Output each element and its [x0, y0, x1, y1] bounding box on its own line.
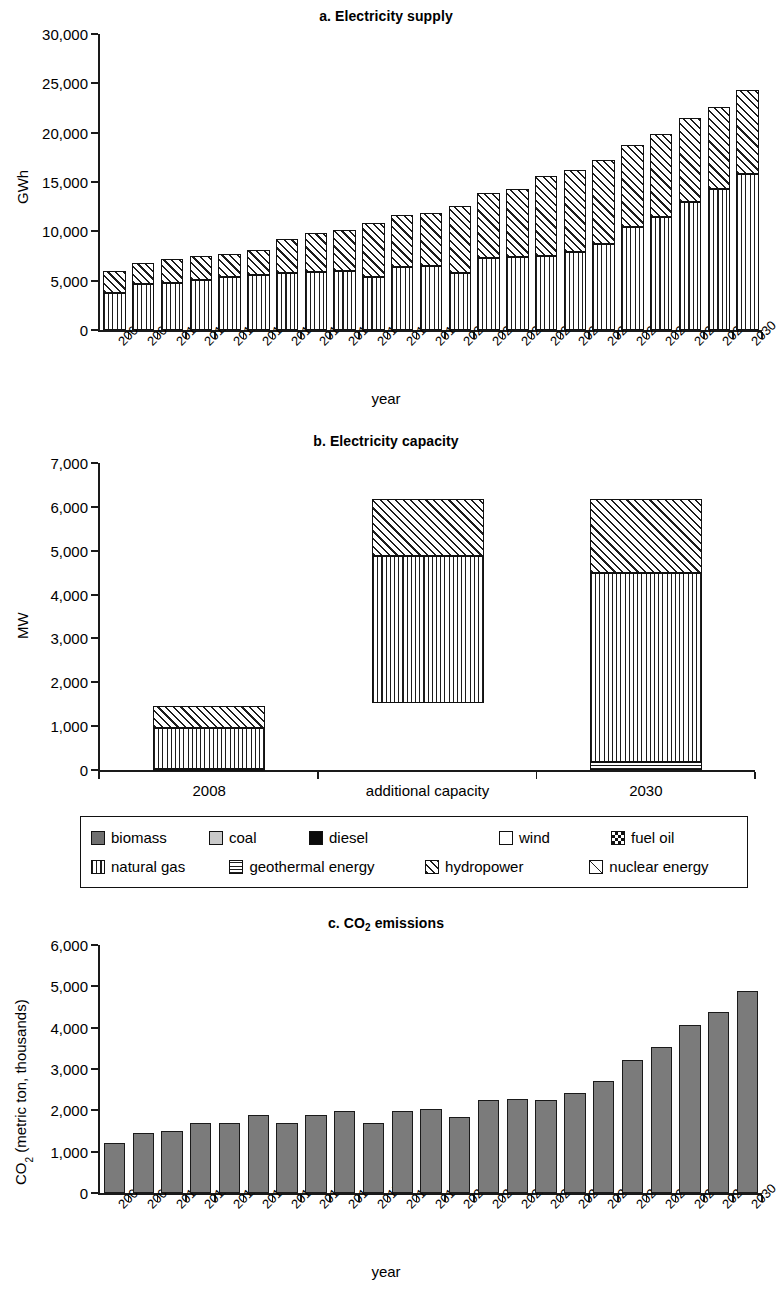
- y-axis-tick: [91, 725, 98, 727]
- bar: [276, 1123, 297, 1193]
- hydropower-swatch: [425, 860, 439, 874]
- bar: [564, 1093, 585, 1193]
- bar: [478, 1100, 499, 1193]
- bar-group: [420, 34, 442, 330]
- y-axis-tick: [91, 462, 98, 464]
- y-axis-tick: [91, 944, 98, 946]
- bar-segment-hydropower: [449, 206, 471, 273]
- bar-group: [161, 34, 183, 330]
- x-axis-tick-label: 2008: [192, 782, 225, 799]
- y-axis-tick-label: 1,000: [12, 718, 88, 735]
- y-axis-tick: [91, 681, 98, 683]
- y-axis-tick-label: 5,000: [12, 542, 88, 559]
- bar-group: [708, 34, 730, 330]
- bar-segment-natural-gas: [153, 728, 265, 768]
- legend-item: biomass: [91, 830, 209, 845]
- y-axis-tick-label: 5,000: [12, 272, 88, 289]
- bar-group: [372, 463, 484, 770]
- y-axis-tick-label: 5,000: [12, 978, 88, 995]
- y-axis-tick-label: 4,000: [12, 586, 88, 603]
- y-axis-tick: [91, 985, 98, 987]
- legend-item-label: wind: [519, 830, 550, 845]
- bar-segment-hydropower: [153, 706, 265, 728]
- bar-group: [153, 463, 265, 770]
- bar-segment-hydropower: [132, 263, 154, 284]
- bar-segment-hydropower: [736, 90, 758, 174]
- bar-group: [650, 34, 672, 330]
- bar-group: [333, 34, 355, 330]
- x-axis-tick: [317, 772, 319, 779]
- bar-segment-natural-gas: [477, 258, 499, 330]
- bar-segment-natural-gas: [218, 277, 240, 330]
- bar-segment-natural-gas: [592, 244, 614, 330]
- bar-segment-hydropower: [276, 239, 298, 273]
- bar-segment-hydropower: [218, 254, 240, 277]
- bar: [104, 1143, 125, 1193]
- y-axis-tick-label: 7,000: [12, 455, 88, 472]
- bar-group: [190, 34, 212, 330]
- panel-electricity-supply: a. Electricity supply 05,00010,00015,000…: [0, 0, 772, 420]
- y-axis-tick-label: 0: [12, 1185, 88, 1202]
- bar-segment-hydropower: [391, 215, 413, 267]
- bar-segment-hydropower: [362, 223, 384, 277]
- y-axis-tick-label: 20,000: [12, 124, 88, 141]
- bar-segment-hydropower: [372, 499, 484, 556]
- bar: [392, 1111, 413, 1193]
- y-axis-tick: [91, 181, 98, 183]
- bar: [593, 1081, 614, 1193]
- bar-segment-natural-gas: [372, 556, 484, 703]
- legend-item: geothermal energy: [229, 859, 425, 874]
- bar-segment-natural-gas: [190, 280, 212, 330]
- y-axis-tick-label: 10,000: [12, 223, 88, 240]
- bar-group: [218, 34, 240, 330]
- bar-group: [592, 34, 614, 330]
- legend-item: hydropower: [425, 859, 589, 874]
- bar-segment-natural-gas: [650, 217, 672, 330]
- legend-item-label: diesel: [329, 830, 368, 845]
- x-axis-end-tick-left: [98, 772, 100, 779]
- y-axis-line: [98, 463, 100, 770]
- bar-group: [679, 34, 701, 330]
- y-axis-line: [98, 34, 100, 330]
- bar: [161, 1131, 182, 1193]
- bar-segment-hydropower: [650, 134, 672, 217]
- y-axis-tick: [91, 1192, 98, 1194]
- bar-segment-geothermal-energy: [153, 769, 265, 771]
- bar-segment-natural-gas: [679, 202, 701, 330]
- bar-group: [391, 34, 413, 330]
- y-axis-tick: [91, 230, 98, 232]
- y-axis-tick-label: 0: [12, 762, 88, 779]
- bar-segment-hydropower: [564, 170, 586, 252]
- bar-segment-natural-gas: [276, 273, 298, 330]
- legend-item-label: biomass: [111, 830, 167, 845]
- bar-segment-natural-gas: [247, 275, 269, 330]
- bar-segment-natural-gas: [621, 227, 643, 330]
- legend-item-label: coal: [229, 830, 257, 845]
- bar-segment-natural-gas: [362, 277, 384, 330]
- bar-segment-hydropower: [247, 250, 269, 275]
- bar-group: [247, 34, 269, 330]
- y-axis-title: GWh: [14, 170, 31, 204]
- bar: [737, 991, 758, 1193]
- bar-segment-natural-gas: [564, 252, 586, 330]
- bar-group: [276, 34, 298, 330]
- wind-swatch: [499, 831, 513, 845]
- panel-co2-emissions: c. CO2 emissions 01,0002,0003,0004,0005,…: [0, 905, 772, 1297]
- bar-segment-hydropower: [506, 189, 528, 257]
- bar-group: [362, 34, 384, 330]
- bar-segment-natural-gas: [161, 283, 183, 330]
- bar-segment-natural-gas: [103, 293, 125, 330]
- bar-segment-hydropower: [708, 107, 730, 189]
- bar-group: [305, 34, 327, 330]
- y-axis-tick-label: 6,000: [12, 937, 88, 954]
- bar-segment-natural-gas: [736, 174, 758, 330]
- legend-row-2: natural gasgeothermal energyhydropowernu…: [91, 852, 737, 881]
- legend-item: natural gas: [91, 859, 229, 874]
- bar-segment-hydropower: [592, 160, 614, 244]
- bar: [305, 1115, 326, 1193]
- x-axis-title: year: [0, 390, 772, 407]
- bar: [420, 1109, 441, 1193]
- y-axis-tick-label: 25,000: [12, 75, 88, 92]
- y-axis-tick: [91, 132, 98, 134]
- legend-item: fuel oil: [611, 830, 707, 845]
